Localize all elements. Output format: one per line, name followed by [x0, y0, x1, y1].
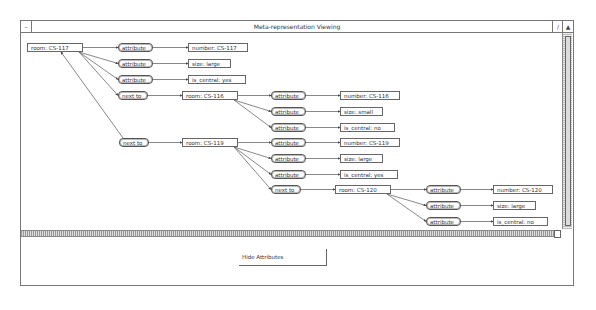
title-bar[interactable]: – Meta-representation Viewing / ▲: [21, 21, 573, 33]
vertical-scrollbar[interactable]: [562, 33, 572, 229]
relation-node[interactable]: attribute: [426, 201, 461, 210]
graph-canvas[interactable]: room: CS-117attributenumber: CS-117attri…: [21, 33, 561, 229]
entity-node[interactable]: number: CS-119: [340, 138, 400, 147]
entity-node[interactable]: size: large: [340, 154, 383, 163]
hide-attributes-button[interactable]: Hide Attributes: [239, 249, 327, 266]
entity-node[interactable]: number: CS-116: [340, 91, 400, 100]
entity-node[interactable]: room: CS-116: [182, 91, 238, 100]
relation-node[interactable]: next to: [118, 91, 148, 100]
entity-node[interactable]: room: CS-119: [182, 138, 238, 147]
entity-node[interactable]: size: large: [493, 201, 536, 210]
relation-node[interactable]: attribute: [271, 170, 306, 179]
relation-node[interactable]: attribute: [271, 154, 306, 163]
relation-node[interactable]: attribute: [271, 123, 306, 132]
relation-node[interactable]: attribute: [271, 138, 306, 147]
entity-node[interactable]: number: CS-117: [188, 43, 248, 52]
entity-node[interactable]: number: CS-120: [493, 185, 553, 194]
horizontal-scrollbar[interactable]: [21, 230, 561, 237]
vertical-scroll-thumb[interactable]: [565, 36, 571, 226]
relation-node[interactable]: attribute: [118, 43, 153, 52]
relation-node[interactable]: next to: [271, 185, 301, 194]
relation-node[interactable]: attribute: [118, 59, 153, 68]
entity-node[interactable]: room: CS-117: [27, 43, 83, 52]
relation-node[interactable]: attribute: [426, 185, 461, 194]
relation-node[interactable]: attribute: [118, 75, 153, 84]
entity-node[interactable]: size: small: [340, 107, 383, 116]
relation-node[interactable]: attribute: [271, 107, 306, 116]
entity-node[interactable]: is_central: yes: [188, 75, 246, 84]
meta-representation-window: – Meta-representation Viewing / ▲ room: …: [20, 20, 574, 286]
relation-node[interactable]: attribute: [426, 217, 461, 226]
relation-node[interactable]: next to: [119, 138, 149, 147]
control-panel: Hide Attributes: [21, 237, 573, 285]
entity-node[interactable]: is_central: yes: [340, 170, 398, 179]
entity-node[interactable]: is_central: no: [493, 217, 548, 226]
entity-node[interactable]: is_central: no: [340, 123, 395, 132]
entity-node[interactable]: size: large: [188, 59, 231, 68]
entity-node[interactable]: room: CS-120: [335, 185, 391, 194]
relation-node[interactable]: attribute: [271, 91, 306, 100]
window-title: Meta-representation Viewing: [21, 21, 573, 32]
maximize-button[interactable]: ▲: [562, 21, 573, 32]
